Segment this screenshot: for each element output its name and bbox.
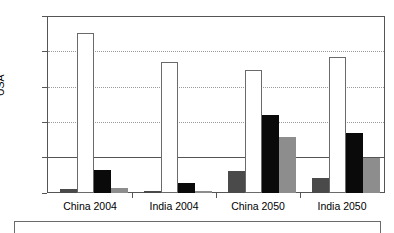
x-tick-mark-3 <box>300 193 301 198</box>
bar-china-2050-series-4 <box>279 137 296 193</box>
bar-china-2050-series-2 <box>245 70 262 193</box>
bar-india-2050-series-3 <box>346 133 363 193</box>
bar-group-china-2004 <box>56 17 132 193</box>
bar-india-2050-series-4 <box>363 158 380 193</box>
bar-china-2004-series-3 <box>94 170 111 193</box>
x-tick-mark-2 <box>216 193 217 198</box>
x-category-india-2050: India 2050 <box>300 200 384 212</box>
bar-chart: USA 500 400 300 200 100 0 <box>0 0 394 233</box>
bar-china-2050-series-3 <box>262 115 279 193</box>
bar-india-2050-series-1 <box>312 178 329 193</box>
bar-india-2004-series-4 <box>195 191 212 193</box>
bar-group-india-2050 <box>308 17 384 193</box>
x-category-china-2004: China 2004 <box>48 200 132 212</box>
bar-india-2004-series-3 <box>178 183 195 193</box>
bar-china-2004-series-2 <box>77 33 94 193</box>
bar-group-india-2004 <box>140 17 216 193</box>
bar-india-2004-series-1 <box>144 191 161 194</box>
bar-india-2050-series-2 <box>329 57 346 193</box>
y-axis-title: USA <box>0 74 6 96</box>
y-tick-mark-0 <box>42 193 47 194</box>
bar-china-2004-series-4 <box>111 188 128 193</box>
x-tick-mark-1 <box>132 193 133 198</box>
bar-china-2050-series-1 <box>228 171 245 193</box>
x-category-china-2050: China 2050 <box>216 200 300 212</box>
legend-box <box>14 221 381 233</box>
bar-group-china-2050 <box>224 17 300 193</box>
bar-india-2004-series-2 <box>161 62 178 193</box>
x-category-india-2004: India 2004 <box>132 200 216 212</box>
bar-groups <box>48 17 384 193</box>
bar-china-2004-series-1 <box>60 189 77 193</box>
